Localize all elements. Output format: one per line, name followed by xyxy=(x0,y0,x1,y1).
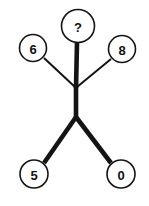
edge-layer xyxy=(44,43,111,163)
node-five-label: 5 xyxy=(30,168,37,183)
edge-question-to-upper-junction xyxy=(76,43,77,88)
edge-lower-junction-to-five xyxy=(44,117,76,163)
node-six[interactable]: 6 xyxy=(20,35,47,62)
tree-diagram-canvas: ? 6 8 5 0 xyxy=(0,0,149,206)
node-six-label: 6 xyxy=(29,42,36,57)
node-question-label: ? xyxy=(74,20,82,35)
diagram-root: ? 6 8 5 0 xyxy=(0,0,149,206)
edge-six-to-upper-junction xyxy=(44,58,75,87)
node-question[interactable]: ? xyxy=(62,10,95,43)
node-five[interactable]: 5 xyxy=(20,160,48,188)
node-zero-label: 0 xyxy=(117,168,124,183)
node-eight[interactable]: 8 xyxy=(109,36,136,63)
node-eight-label: 8 xyxy=(118,43,125,58)
edge-eight-to-upper-junction xyxy=(77,59,111,87)
node-zero[interactable]: 0 xyxy=(107,160,135,188)
edge-lower-junction-to-zero xyxy=(76,117,111,163)
